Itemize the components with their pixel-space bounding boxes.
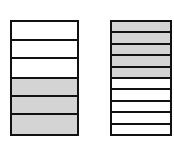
right-stack-row-gray: [112, 68, 170, 79]
left-stack-row-white: [12, 22, 77, 41]
left-stack-row-gray: [12, 115, 77, 135]
right-stack-box: [110, 20, 172, 136]
right-stack-row-gray: [112, 33, 170, 44]
left-stack-box: [10, 20, 79, 136]
left-stack-row-gray: [12, 79, 77, 98]
right-stack-row-white: [112, 79, 170, 90]
left-stack-row-white: [12, 59, 77, 79]
left-stack-row-white: [12, 41, 77, 59]
right-stack-row-gray: [112, 56, 170, 67]
right-stack-row-gray: [112, 45, 170, 56]
right-stack-row-white: [112, 90, 170, 101]
right-stack-row-white: [112, 125, 170, 134]
right-stack-row-white: [112, 102, 170, 113]
right-stack-row-gray: [112, 22, 170, 33]
left-stack-row-gray: [12, 97, 77, 114]
right-stack-row-white: [112, 113, 170, 124]
